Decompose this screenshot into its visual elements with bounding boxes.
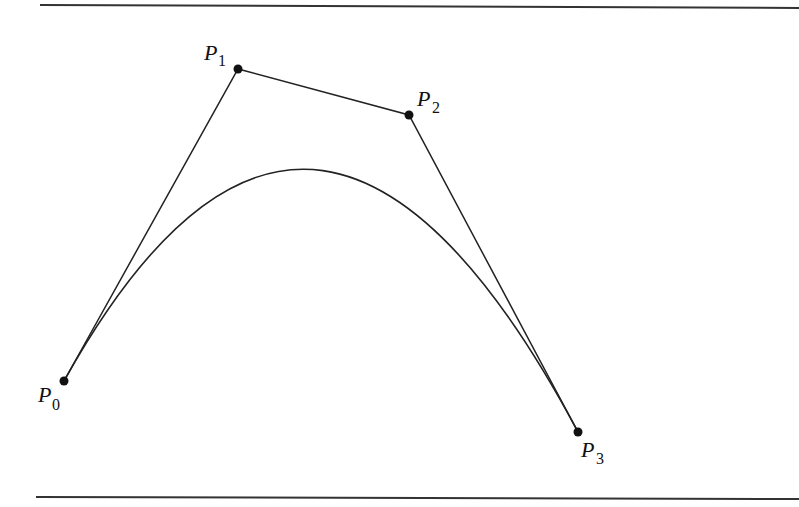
point-dot-icon [234,65,243,74]
point-label: P [203,40,217,65]
control-polygon [64,69,578,432]
control-point-p0: P0 [37,377,69,414]
point-dot-icon [405,111,414,120]
bottom-rule [36,497,799,499]
control-point-p3: P3 [574,428,605,468]
bezier-diagram: P0P1P2P3 [0,0,799,507]
point-subscript: 0 [52,396,60,413]
top-rule [40,5,799,8]
control-points: P0P1P2P3 [37,40,604,467]
point-dot-icon [574,428,583,437]
point-label: P [416,86,430,111]
control-point-p1: P1 [203,40,243,74]
point-subscript: 1 [218,52,226,69]
point-subscript: 3 [596,450,604,467]
bezier-curve [64,169,578,432]
point-dot-icon [60,377,69,386]
point-label: P [37,382,51,407]
control-point-p2: P2 [405,86,441,120]
point-label: P [580,437,594,462]
point-subscript: 2 [432,99,440,116]
